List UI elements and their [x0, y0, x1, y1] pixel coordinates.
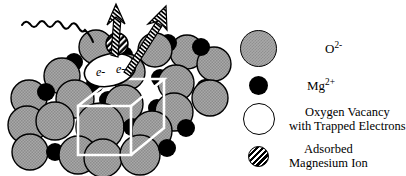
- legend-entry-oxygen: O2-: [240, 30, 342, 67]
- legend-label-adsorbed-line2: Magnesium Ion: [289, 156, 368, 170]
- legend-entry-adsorbed: Adsorbed Magnesium Ion: [248, 142, 368, 170]
- legend-label-oxygen: O2-: [325, 40, 342, 57]
- black-sphere-icon: [249, 76, 268, 95]
- legend-label-oxygen-charge: 2-: [334, 40, 342, 50]
- legend-label-magnesium: Mg2+: [307, 77, 335, 94]
- legend-label-vacancy: Oxygen Vacancy with Trapped Electrons: [289, 105, 406, 133]
- legend-label-adsorbed-line1: Adsorbed: [289, 142, 368, 156]
- legend-label-magnesium-text: Mg: [307, 78, 325, 93]
- legend-label-vacancy-line1: Oxygen Vacancy: [289, 105, 406, 119]
- trapped-electron-label-2: e-: [116, 62, 125, 76]
- dithered-gray-sphere-icon: [240, 30, 277, 67]
- legend-entry-magnesium: Mg2+: [249, 76, 335, 95]
- legend: O2- Mg2+ Oxygen Vacancy with Trapped Ele…: [232, 0, 396, 176]
- legend-label-magnesium-charge: 2+: [325, 77, 335, 87]
- crystal-structure-diagram: e- e-: [0, 0, 232, 176]
- open-circle-icon: [243, 103, 275, 135]
- legend-entry-vacancy: Oxygen Vacancy with Trapped Electrons: [243, 103, 406, 135]
- legend-label-vacancy-line2: with Trapped Electrons: [289, 119, 406, 133]
- legend-label-oxygen-text: O: [325, 41, 334, 56]
- hatched-circle-icon: [248, 146, 269, 167]
- legend-label-adsorbed: Adsorbed Magnesium Ion: [289, 142, 368, 170]
- crystal-svg: e- e-: [0, 0, 232, 176]
- trapped-electron-label-1: e-: [96, 65, 105, 79]
